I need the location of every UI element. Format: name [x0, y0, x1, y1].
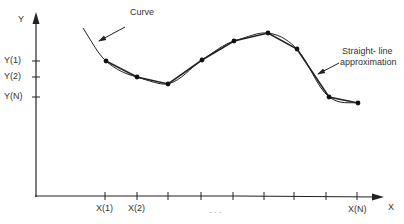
- curve-pointer-arrow-icon: [99, 27, 125, 41]
- x-tick-label-1: X(1): [96, 204, 113, 213]
- x-tick-label-2: X(2): [128, 204, 145, 213]
- x-axis-label: X: [388, 203, 394, 212]
- straight-line-approximation: [106, 33, 358, 103]
- x-tick-label-n: X(N): [348, 205, 367, 214]
- y-axis-arrow-icon: [33, 12, 40, 24]
- x-ellipsis: . . .: [209, 206, 222, 215]
- y-axis: [32, 12, 40, 197]
- smooth-curve: [83, 28, 358, 103]
- x-axis: [35, 192, 384, 201]
- approx-annotation-line2: approximation: [340, 58, 397, 67]
- approximation-diagram: [0, 0, 404, 224]
- approx-annotation-line1: Straight- line: [342, 47, 393, 56]
- y-axis-label: Y: [18, 15, 24, 24]
- y-tick-label-n: Y(N): [4, 92, 23, 101]
- y-tick-label-1: Y(1): [4, 56, 21, 65]
- y-tick-label-2: Y(2): [4, 72, 21, 81]
- approx-pointer-arrow-icon: [318, 63, 339, 74]
- curve-annotation: Curve: [130, 8, 154, 17]
- x-axis-arrow-icon: [372, 194, 384, 201]
- sample-points: [104, 31, 361, 106]
